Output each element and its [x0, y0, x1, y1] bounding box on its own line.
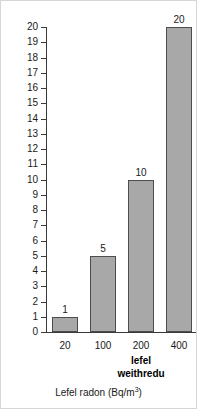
y-tick-label: 11 [28, 157, 38, 170]
y-tick-label: 14 [27, 112, 38, 125]
y-tick-label: 5 [32, 249, 38, 262]
y-tick-label: 7 [32, 218, 38, 231]
bar-value-label: 10 [135, 167, 146, 179]
x-axis-title: Lefel radon (Bq/m3) [1, 386, 196, 399]
x-axis-title-text: Lefel radon (Bq/m [55, 387, 135, 398]
y-tick-label: 10 [27, 173, 38, 186]
x-tick-label-400: 400 [159, 339, 197, 352]
y-tick-label: 3 [32, 279, 38, 292]
bar-100: 5 [90, 256, 116, 332]
x-axis-title-tail: ) [139, 387, 142, 398]
action-level-line-1: lefel [106, 354, 176, 367]
action-level-annotation: lefel weithredu [106, 354, 176, 380]
y-tick-label: 6 [32, 234, 38, 247]
y-tick-label: 8 [32, 203, 38, 216]
bar-200: 10 [128, 180, 154, 333]
y-tick-label: 2 [32, 295, 38, 308]
bar-value-label: 20 [173, 14, 184, 26]
y-tick-label: 13 [27, 127, 38, 140]
x-tick-label-200: 200 [121, 339, 161, 352]
bar-value-label: 1 [62, 304, 68, 316]
y-tick-label: 18 [27, 51, 38, 64]
x-tick-label-20: 20 [45, 339, 85, 352]
bar-20: 1 [52, 317, 78, 332]
x-tick-label-100: 100 [83, 339, 123, 352]
y-tick-label: 17 [27, 66, 38, 79]
bar-400: 20 [166, 27, 192, 332]
y-tick-label: 9 [32, 188, 38, 201]
action-level-line-2: weithredu [106, 367, 176, 380]
y-tick-label: 0 [32, 325, 38, 338]
chart-figure: Nifer y bobl (ym mhob 1000) 012345678910… [0, 0, 197, 409]
y-tick-label: 12 [27, 142, 38, 155]
y-tick-label: 4 [32, 264, 38, 277]
y-tick-label: 19 [27, 35, 38, 48]
y-tick-label: 16 [27, 81, 38, 94]
y-tick-label: 1 [32, 310, 38, 323]
y-tick-label: 20 [27, 20, 38, 33]
y-tick-label: 15 [27, 96, 38, 109]
bar-value-label: 5 [100, 243, 106, 255]
plot-area: 151020 [46, 27, 197, 332]
y-tick-mark [41, 332, 46, 333]
x-axis-line [46, 332, 197, 333]
